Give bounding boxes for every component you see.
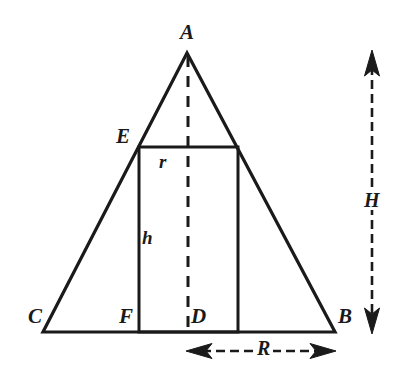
triangle-outline — [43, 53, 335, 332]
dimension-label-h-capital: H — [361, 190, 383, 210]
radius-arrowhead-right — [310, 344, 336, 359]
geometry-figure: A B C D E F H R h r — [0, 0, 398, 386]
vertex-label-d: D — [191, 306, 206, 327]
triangle-path — [43, 53, 335, 332]
vertex-label-e: E — [116, 126, 130, 147]
vertex-label-b: B — [338, 306, 352, 327]
vertex-label-f: F — [119, 306, 133, 327]
vertex-label-c: C — [28, 306, 42, 327]
dimension-label-r-capital: R — [254, 338, 273, 358]
vertex-label-a: A — [180, 22, 194, 43]
dimension-label-h-small: h — [142, 228, 153, 247]
dimension-label-r-small: r — [159, 152, 166, 171]
figure-canvas — [0, 0, 398, 386]
